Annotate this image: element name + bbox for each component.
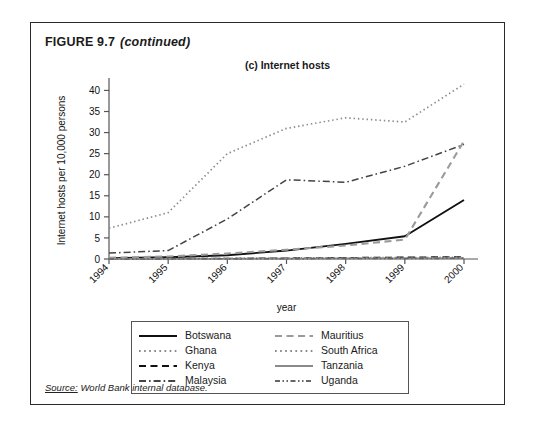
source-note: Source: World Bank internal database.: [45, 382, 208, 393]
legend-item: Kenya: [136, 358, 268, 372]
legend-item: Uganda: [272, 373, 404, 387]
legend-grid: BotswanaMauritiusGhanaSouth AfricaKenyaT…: [136, 328, 404, 387]
legend-label: Tanzania: [321, 358, 363, 372]
x-tick-label: 1996: [205, 261, 229, 285]
legend-swatch-icon: [274, 375, 314, 385]
y-tick-label: 30: [89, 127, 101, 138]
chart-series-group: [109, 84, 464, 259]
source-label: Source:: [45, 382, 78, 393]
legend-label: Uganda: [321, 373, 358, 387]
legend-label: Mauritius: [321, 328, 364, 342]
chart-axes: [104, 78, 478, 264]
x-tick-label: 2000: [442, 261, 466, 285]
legend-label: Botswana: [185, 328, 231, 342]
y-tick-label: 20: [89, 169, 101, 180]
y-tick-label: 0: [94, 254, 100, 265]
legend-swatch-icon: [274, 330, 314, 340]
y-tick-label: 10: [89, 211, 101, 222]
x-tick-label: 1999: [383, 261, 407, 285]
chart-axis-labels: 0510152025303540199419951996199719981999…: [56, 85, 466, 313]
x-tick-label: 1998: [324, 261, 348, 285]
x-tick-label: 1994: [87, 261, 111, 285]
x-axis-title: year: [277, 302, 297, 313]
legend-label: Ghana: [185, 343, 217, 357]
figure-frame: FIGURE 9.7(continued) (c) Internet hosts…: [30, 22, 505, 405]
y-axis-title: Internet hosts per 10,000 persons: [56, 96, 67, 246]
legend-swatch-icon: [138, 360, 178, 370]
y-tick-label: 5: [94, 233, 100, 244]
y-tick-label: 35: [89, 106, 101, 117]
y-tick-label: 40: [89, 85, 101, 96]
legend-item: Ghana: [136, 343, 268, 357]
x-tick-label: 1995: [146, 261, 170, 285]
legend-swatch-icon: [138, 330, 178, 340]
series-line-malaysia: [109, 144, 464, 253]
y-tick-label: 25: [89, 148, 101, 159]
legend-label: Kenya: [185, 358, 215, 372]
legend-item: Tanzania: [272, 358, 404, 372]
y-tick-label: 15: [89, 190, 101, 201]
legend-swatch-icon: [274, 345, 314, 355]
legend-swatch-icon: [138, 345, 178, 355]
series-line-mauritius: [109, 141, 464, 258]
legend-item: South Africa: [272, 343, 404, 357]
source-text: World Bank internal database.: [78, 382, 208, 393]
legend-item: Botswana: [136, 328, 268, 342]
series-line-tanzania: [109, 258, 464, 259]
x-tick-label: 1997: [264, 261, 288, 285]
legend-item: Mauritius: [272, 328, 404, 342]
legend-swatch-icon: [274, 360, 314, 370]
series-line-ghana: [109, 84, 464, 228]
legend-label: South Africa: [321, 343, 378, 357]
